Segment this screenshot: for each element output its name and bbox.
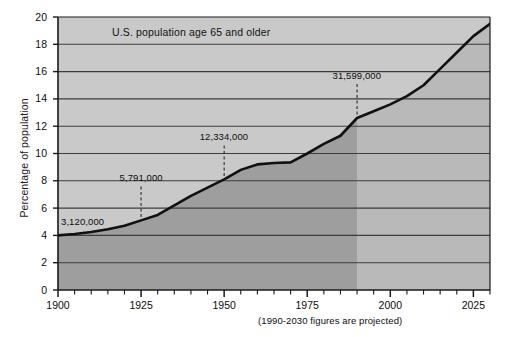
annotation-label-1990: 31,599,000 [333,70,382,81]
x-tick-label-2000: 2000 [367,300,413,311]
chart-figure: Percentage of population [0,0,518,337]
y-tick-label-2: 2 [21,257,47,268]
x-axis-ticks [58,290,490,297]
y-tick-label-4: 4 [21,230,47,241]
annotation-label-1950: 12,334,000 [200,131,249,142]
y-tick-label-6: 6 [21,203,47,214]
projection-footnote: (1990-2030 figures are projected) [258,315,402,326]
annotation-label-1900: 3,120,000 [61,216,104,227]
x-tick-label-2025: 2025 [450,300,496,311]
y-tick-label-18: 18 [21,39,47,50]
y-tick-label-10: 10 [21,148,47,159]
annotation-label-1925: 5,791,000 [120,172,163,183]
x-tick-label-1950: 1950 [201,300,247,311]
y-tick-label-8: 8 [21,175,47,186]
y-tick-label-14: 14 [21,93,47,104]
x-tick-label-1900: 1900 [35,300,81,311]
x-tick-label-1975: 1975 [284,300,330,311]
y-tick-label-0: 0 [21,285,47,296]
line-area-chart-canvas [0,0,518,337]
y-tick-label-12: 12 [21,121,47,132]
x-tick-label-1925: 1925 [118,300,164,311]
y-tick-label-16: 16 [21,66,47,77]
chart-title: U.S. population age 65 and older [112,26,270,38]
y-tick-label-20: 20 [21,12,47,23]
